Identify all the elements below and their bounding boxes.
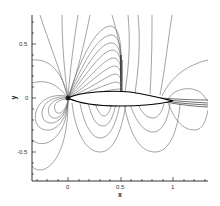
x-axis-title: x [118,191,122,198]
y-ticks [32,22,36,174]
y-axis-title: y [10,96,17,100]
x-tick-label-0.5: 0.5 [116,184,124,190]
y-tick-label-0: 0 [25,95,28,101]
contour-plot [0,0,220,206]
y-tick-label-neg0.5: -0.5 [17,149,27,155]
x-ticks [37,177,205,181]
y-tick-label-0.5: 0.5 [19,41,27,47]
x-tick-label-0: 0 [66,184,69,190]
airfoil [68,91,173,106]
x-tick-label-1: 1 [171,184,174,190]
